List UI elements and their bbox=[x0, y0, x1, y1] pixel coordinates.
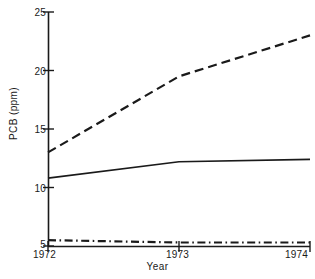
y-axis-tick-label-25: 25 bbox=[24, 7, 46, 18]
plot-area bbox=[0, 0, 315, 279]
x-axis-tick-label-1972: 1972 bbox=[33, 249, 56, 260]
y-axis-label: PCB (ppm) bbox=[8, 79, 19, 149]
y-axis-tick-label-10: 10 bbox=[24, 183, 46, 194]
chart-figure: PCB (ppm) 25 20 15 10 5 1972 1973 1974 Y… bbox=[0, 0, 315, 279]
series-line-dashed-series bbox=[48, 35, 310, 152]
y-axis-tick-label-15: 15 bbox=[24, 124, 46, 135]
cropped-caption bbox=[0, 274, 315, 279]
data-series-group bbox=[48, 35, 310, 242]
series-line-solid-series bbox=[48, 159, 310, 178]
x-axis-tick-label-1973: 1973 bbox=[166, 249, 189, 260]
y-axis-tick-label-20: 20 bbox=[24, 66, 46, 77]
x-axis-label: Year bbox=[0, 261, 315, 272]
x-axis-tick-label-1974: 1974 bbox=[285, 249, 308, 260]
